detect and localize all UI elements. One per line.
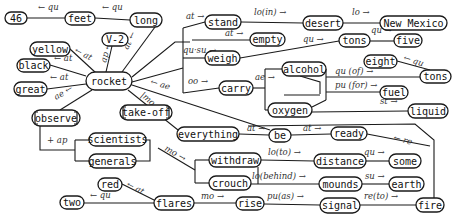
node-tons1: tons bbox=[339, 34, 370, 47]
edge-label: pu(as) → bbox=[267, 191, 304, 201]
edge-line bbox=[264, 204, 320, 205]
node-label: eight bbox=[365, 56, 395, 67]
edge-label: ← at bbox=[73, 45, 94, 63]
edge-label: qu → bbox=[303, 34, 324, 44]
node-tons2: tons bbox=[420, 70, 451, 83]
node-weigh: weigh bbox=[205, 51, 240, 65]
node-label: observe bbox=[35, 113, 77, 124]
edge-line bbox=[261, 160, 314, 161]
node-label: signal bbox=[322, 200, 358, 211]
node-label: fire bbox=[418, 200, 442, 211]
node-label: oxygen bbox=[272, 105, 308, 116]
edge-label: ← qu bbox=[102, 2, 123, 12]
node-label: long bbox=[134, 15, 158, 26]
node-label: take-off bbox=[122, 107, 170, 118]
node-label: tons bbox=[423, 71, 447, 82]
edge-line bbox=[183, 88, 219, 93]
node-desert: desert bbox=[303, 16, 343, 30]
node-oxygen: oxygen bbox=[268, 103, 312, 117]
node-scientists: scientists bbox=[87, 133, 147, 146]
edge-line bbox=[95, 18, 130, 20]
edge-line bbox=[312, 111, 408, 112]
node-label: liquid bbox=[410, 106, 446, 117]
node-label: New Mexico bbox=[383, 18, 443, 29]
node-long: long bbox=[130, 13, 162, 27]
node-be: be bbox=[269, 129, 291, 142]
node-rocket: rocket bbox=[86, 72, 132, 90]
node-great: great bbox=[14, 82, 47, 96]
node-earth: earth bbox=[389, 177, 424, 191]
edge-label: ← qu bbox=[38, 2, 59, 12]
node-label: everything bbox=[178, 129, 238, 140]
edge-label: qu → bbox=[364, 147, 385, 157]
node-label: feet bbox=[68, 13, 92, 24]
node-flares: flares bbox=[154, 196, 194, 210]
node-mounds: mounds bbox=[319, 177, 362, 191]
node-label: crouch bbox=[212, 178, 248, 189]
edge-label: lo(in) → bbox=[254, 7, 287, 17]
node-label: stand bbox=[208, 17, 238, 28]
edge-label: mo → bbox=[201, 191, 224, 201]
node-label: mounds bbox=[322, 179, 358, 190]
node-label: yellow bbox=[32, 44, 69, 55]
edge-label: ← re bbox=[392, 132, 413, 147]
edge-label: lo → bbox=[352, 7, 370, 17]
node-feet: feet bbox=[65, 12, 95, 25]
node-liquid: liquid bbox=[408, 104, 448, 118]
node-label: tons bbox=[342, 35, 366, 46]
edge-label: + ap bbox=[47, 135, 68, 145]
node-label: withdraw bbox=[211, 155, 260, 166]
nodes-layer: 46feetlongV-2yellowblackrocketgreatobser… bbox=[5, 12, 451, 213]
node-label: desert bbox=[305, 18, 341, 29]
edges-layer: ← qu← quat ←ap ←← at← at← atae ←at →at →… bbox=[27, 2, 434, 205]
node-yellow: yellow bbox=[30, 42, 70, 56]
node-fuel: fuel bbox=[380, 86, 408, 99]
node-label: alcohol bbox=[283, 64, 325, 75]
edge-label: at → bbox=[186, 11, 204, 21]
node-signal: signal bbox=[320, 198, 360, 213]
node-alcohol: alcohol bbox=[282, 62, 326, 76]
edge-label: ← at bbox=[125, 179, 146, 197]
node-label: be bbox=[274, 130, 286, 141]
edge-line bbox=[291, 134, 331, 135]
node-label: generals bbox=[88, 156, 136, 167]
node-black: black bbox=[17, 59, 50, 72]
node-rise: rise bbox=[236, 197, 264, 210]
edge-label: ← ae bbox=[149, 76, 171, 91]
node-label: two bbox=[63, 197, 81, 208]
node-label: V-2 bbox=[106, 34, 124, 45]
edge-label: lo(behind) → bbox=[252, 171, 306, 181]
edge-line bbox=[300, 76, 320, 94]
node-label: carry bbox=[221, 83, 251, 94]
node-observe: observe bbox=[32, 110, 80, 126]
node-label: earth bbox=[391, 179, 421, 190]
node-withdraw: withdraw bbox=[209, 153, 261, 167]
node-label: red bbox=[101, 179, 119, 190]
node-generals: generals bbox=[88, 154, 136, 168]
edge-label: mo → bbox=[163, 143, 188, 163]
edge-label: ← at bbox=[50, 72, 69, 82]
node-label: ready bbox=[334, 128, 364, 139]
node-stand: stand bbox=[205, 15, 241, 29]
node-label: some bbox=[393, 156, 417, 167]
node-label: empty bbox=[252, 34, 282, 45]
concept-network-diagram: ← qu← quat ←ap ←← at← at← atae ←at →at →… bbox=[0, 0, 457, 224]
edge-line bbox=[312, 100, 326, 107]
node-n46: 46 bbox=[5, 12, 27, 24]
node-takeoff: take-off bbox=[120, 105, 172, 120]
node-everything: everything bbox=[177, 127, 239, 141]
edge-line bbox=[239, 134, 269, 135]
node-five: five bbox=[394, 34, 422, 47]
node-two: two bbox=[60, 196, 84, 209]
node-ready: ready bbox=[331, 127, 367, 140]
node-label: fuel bbox=[382, 87, 406, 98]
node-label: great bbox=[15, 84, 45, 95]
edge-label: at → bbox=[303, 123, 321, 133]
edge-line bbox=[183, 22, 205, 28]
node-some: some bbox=[389, 154, 421, 168]
node-label: weigh bbox=[207, 53, 237, 64]
edge-label: pu (for) → bbox=[335, 80, 377, 90]
node-label: distance bbox=[316, 156, 364, 167]
node-label: scientists bbox=[87, 134, 147, 145]
node-empty: empty bbox=[250, 33, 285, 46]
